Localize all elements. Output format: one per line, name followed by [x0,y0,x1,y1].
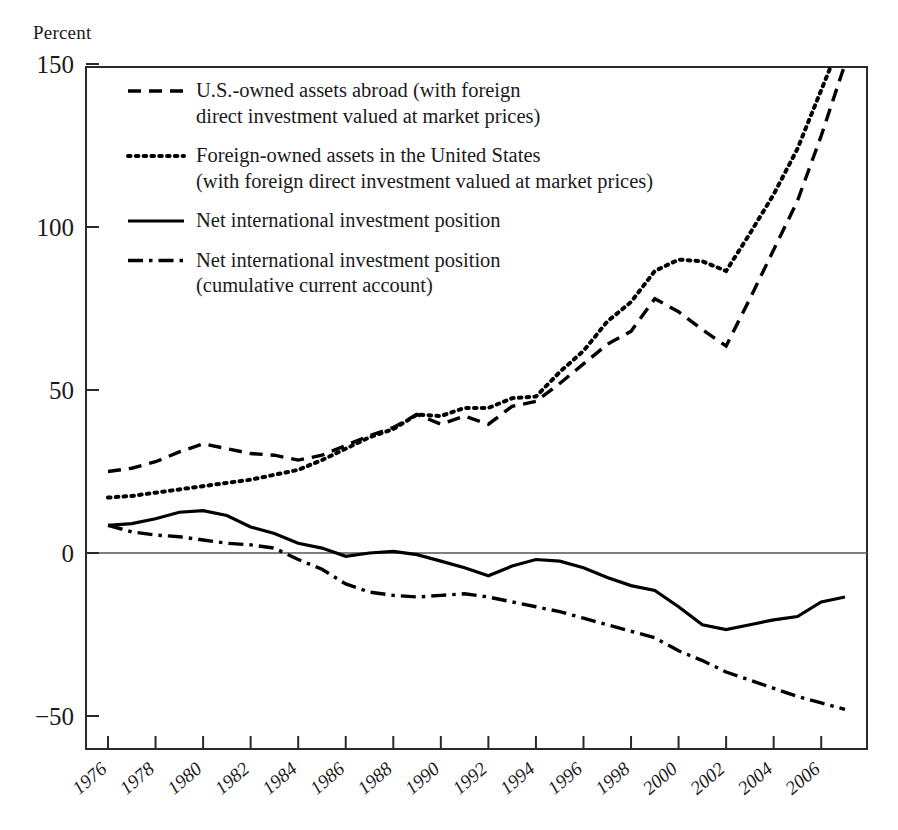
x-axis-tick-label: 1980 [163,758,206,799]
x-axis-tick-label: 2004 [734,758,777,799]
x-axis-tick-label: 1990 [401,758,444,799]
x-axis-tick-label: 1984 [258,758,301,799]
x-axis-tick-label: 1988 [353,758,396,799]
y-axis-tick-label: 50 [49,377,74,404]
x-axis-tick-label: 2002 [686,758,729,799]
legend-label-foreign-owned-assets-in-us: (with foreign direct investment valued a… [196,170,653,193]
y-axis-tick-label: −50 [35,703,74,730]
legend-label-us-owned-assets-abroad: U.S.-owned assets abroad (with foreign [196,79,521,102]
line-chart: −50050100150 197619781980198219841986198… [0,0,898,830]
legend-label-net-international-investment-position: Net international investment position [196,209,501,232]
legend-label-net-iip-cumulative-current-account: (cumulative current account) [196,274,433,297]
series-line-solid [108,511,845,630]
x-axis-tick-label: 1978 [116,758,159,799]
y-axis-tick-label: 150 [37,51,75,78]
y-axis-tick-label: 100 [37,214,75,241]
legend-label-net-iip-cumulative-current-account: Net international investment position [196,249,501,272]
legend-label-foreign-owned-assets-in-us: Foreign-owned assets in the United State… [196,144,540,167]
legend-label-us-owned-assets-abroad: direct investment valued at market price… [196,105,540,128]
y-axis-unit-label: Percent [33,22,91,44]
x-axis-tick-label: 1998 [591,758,634,799]
chart-legend: U.S.-owned assets abroad (with foreigndi… [128,79,653,297]
x-axis-tick-label: 1992 [448,758,491,799]
x-axis-tick-label: 1982 [211,758,254,799]
x-axis: 1976197819801982198419861988199019921994… [68,736,824,798]
figure-container: Percent −50050100150 1976197819801982198… [0,0,898,830]
x-axis-tick-label: 1986 [306,758,349,799]
y-axis: −50050100150 [35,51,99,730]
data-series-group [108,31,845,709]
x-axis-tick-label: 2006 [781,758,824,799]
x-axis-tick-label: 1996 [543,758,586,799]
x-axis-tick-label: 2000 [639,758,682,799]
x-axis-tick-label: 1976 [68,758,111,799]
x-axis-tick-label: 1994 [496,758,539,799]
y-axis-tick-label: 0 [62,540,75,567]
